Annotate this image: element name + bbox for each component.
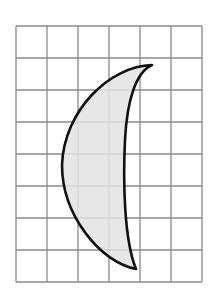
crescent-shape (62, 65, 152, 269)
grid-diagram (0, 0, 210, 301)
